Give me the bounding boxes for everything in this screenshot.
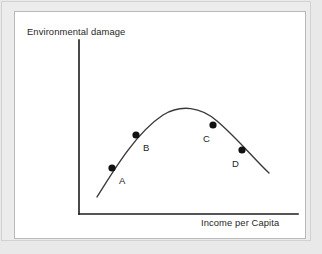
- data-point-b: [132, 131, 139, 138]
- x-axis-label: Income per Capita: [201, 217, 279, 228]
- data-point-a-label: A: [119, 175, 126, 186]
- chart-panel: Environmental damage A B C D Income per …: [14, 11, 306, 239]
- plot-area: A B C D: [15, 12, 306, 239]
- data-point-c: [209, 121, 216, 128]
- data-point-d: [238, 146, 245, 153]
- figure-root: Environmental damage A B C D Income per …: [0, 0, 322, 254]
- data-point-d-label: D: [232, 158, 239, 169]
- data-point-a: [108, 164, 115, 171]
- data-point-c-label: C: [203, 133, 210, 144]
- data-point-b-label: B: [143, 142, 149, 153]
